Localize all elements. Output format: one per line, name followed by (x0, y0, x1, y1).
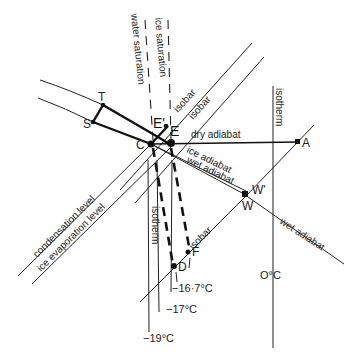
point-A-label: A (302, 136, 310, 150)
temp-label-19: −19°C (143, 332, 174, 344)
point-D-dot (171, 263, 177, 269)
segment-T-S (93, 105, 103, 122)
point-W-dot (242, 191, 248, 197)
point-E-dot (167, 139, 175, 147)
isotherm-left-label: isotherm (150, 206, 161, 244)
isobar-lower-label: isobar (187, 224, 215, 252)
point-C-label: C (136, 138, 145, 152)
water-saturation-label: water saturation (129, 12, 147, 85)
ice-saturation-line (168, 20, 171, 140)
temp-label-0: O°C (260, 269, 281, 281)
wet-adiabat-label-2: wet adiabat (277, 215, 327, 253)
atmospheric-diagram: water saturation ice saturation isobar i… (0, 0, 359, 361)
dry-adiabat-label: dry adiabat (191, 129, 241, 140)
point-W-label: W (242, 199, 254, 213)
isotherm-16-7-line (171, 160, 172, 292)
point-Eprime-label: E' (153, 115, 165, 131)
temp-label-17: −17°C (166, 303, 197, 315)
temp-label-16-7: −16·7°C (172, 282, 213, 294)
point-F-label: F (192, 245, 199, 259)
point-E-label: E (170, 123, 179, 139)
ice-saturation-label: ice saturation (153, 17, 169, 77)
point-T-label: T (98, 90, 106, 104)
point-C-dot (148, 141, 155, 148)
diagram-canvas: water saturation ice saturation isobar i… (0, 0, 359, 361)
point-S-dot (91, 120, 96, 125)
point-F-dot (186, 250, 191, 255)
tick-D (176, 272, 177, 282)
line-to-T (40, 80, 103, 105)
point-D-label: D (178, 260, 187, 274)
isotherm-19-line (148, 160, 149, 332)
segment-T-Eprime (103, 105, 158, 137)
isotherm-right-label: isotherm (274, 88, 285, 126)
point-A-dot (295, 139, 300, 144)
tick-F (189, 258, 190, 268)
point-Wprime-label: W' (252, 183, 266, 197)
point-S-label: S (83, 117, 91, 131)
